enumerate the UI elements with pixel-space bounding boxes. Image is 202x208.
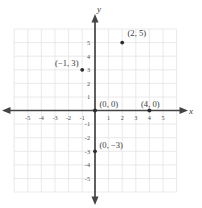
x-tick-label: -4 — [39, 114, 44, 121]
y-tick-label: 3 — [87, 66, 90, 73]
x-tick-label: 5 — [161, 114, 164, 121]
point-label-4-0: (4, 0) — [141, 99, 160, 109]
y-tick-label: -3 — [85, 148, 90, 155]
y-tick-label: -4 — [85, 161, 90, 168]
y-axis-name: y — [96, 4, 101, 14]
point-label-0-neg3: (0, −3) — [100, 140, 124, 150]
x-tick-label: 1 — [107, 114, 110, 121]
y-tick-label: -1 — [85, 120, 90, 127]
y-tick-label: 2 — [87, 80, 90, 87]
x-axis-name: x — [188, 106, 193, 116]
point-label-neg1-3: (−1, 3) — [55, 58, 79, 68]
point-marker-2-5[interactable] — [120, 41, 124, 45]
point-marker-0-0[interactable] — [93, 109, 97, 113]
x-tick-label: -5 — [25, 114, 30, 121]
y-tick-label: 1 — [87, 93, 90, 100]
point-label-2-5: (2, 5) — [128, 28, 147, 38]
point-marker-4-0[interactable] — [147, 109, 151, 113]
point-marker-neg1-3[interactable] — [80, 68, 84, 72]
x-tick-label: 3 — [134, 114, 137, 121]
point-marker-0-neg3[interactable] — [93, 149, 97, 153]
coordinate-plane-figure: -5 -4 -3 -2 -1 1 2 3 4 5 5 4 3 2 1 -1 -2… — [0, 0, 202, 208]
y-tick-label: 5 — [87, 39, 90, 46]
x-tick-label: 4 — [148, 114, 151, 121]
point-label-0-0: (0, 0) — [100, 99, 119, 109]
x-tick-label: -2 — [66, 114, 71, 121]
coordinate-plane-svg: -5 -4 -3 -2 -1 1 2 3 4 5 5 4 3 2 1 -1 -2… — [0, 0, 202, 208]
y-tick-label: -2 — [85, 134, 90, 141]
x-tick-label: 2 — [121, 114, 124, 121]
y-tick-label: 4 — [87, 53, 90, 60]
x-tick-label: -3 — [52, 114, 57, 121]
y-tick-label: -5 — [85, 175, 90, 182]
